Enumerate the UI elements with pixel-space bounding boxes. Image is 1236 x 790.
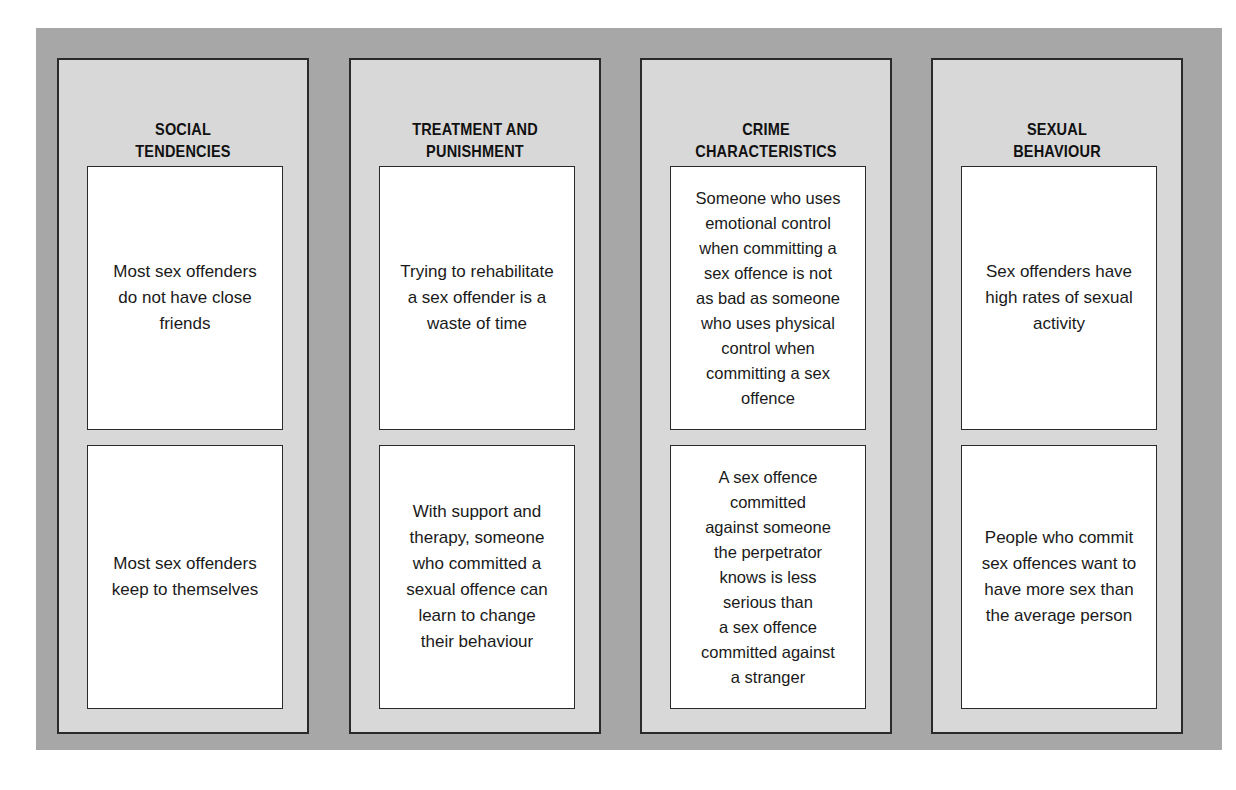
column-title: SOCIAL TENDENCIES	[74, 118, 292, 162]
column-treatment-and-punishment: TREATMENT AND PUNISHMENT Trying to rehab…	[349, 58, 601, 734]
statement-text: Most sex offenders do not have close fri…	[113, 259, 256, 337]
statement-card: A sex offence committed against someone …	[670, 445, 866, 709]
statement-card: Trying to rehabilitate a sex offender is…	[379, 166, 575, 430]
statement-text: Someone who uses emotional control when …	[696, 186, 841, 411]
column-title: TREATMENT AND PUNISHMENT	[366, 118, 584, 162]
diagram-panel: SOCIAL TENDENCIES Most sex offenders do …	[36, 28, 1222, 750]
statement-text: A sex offence committed against someone …	[701, 465, 835, 690]
statement-card: People who commit sex offences want to h…	[961, 445, 1157, 709]
column-title: CRIME CHARACTERISTICS	[657, 118, 875, 162]
statement-card: Most sex offenders do not have close fri…	[87, 166, 283, 430]
statement-text: Most sex offenders keep to themselves	[112, 551, 258, 603]
statement-text: People who commit sex offences want to h…	[982, 525, 1137, 629]
column-crime-characteristics: CRIME CHARACTERISTICS Someone who uses e…	[640, 58, 892, 734]
statement-card: With support and therapy, someone who co…	[379, 445, 575, 709]
column-social-tendencies: SOCIAL TENDENCIES Most sex offenders do …	[57, 58, 309, 734]
statement-card: Sex offenders have high rates of sexual …	[961, 166, 1157, 430]
column-sexual-behaviour: SEXUAL BEHAVIOUR Sex offenders have high…	[931, 58, 1183, 734]
statement-text: Trying to rehabilitate a sex offender is…	[400, 259, 553, 337]
statement-text: With support and therapy, someone who co…	[406, 499, 547, 655]
statement-text: Sex offenders have high rates of sexual …	[985, 259, 1132, 337]
statement-card: Most sex offenders keep to themselves	[87, 445, 283, 709]
column-title: SEXUAL BEHAVIOUR	[948, 118, 1166, 162]
statement-card: Someone who uses emotional control when …	[670, 166, 866, 430]
